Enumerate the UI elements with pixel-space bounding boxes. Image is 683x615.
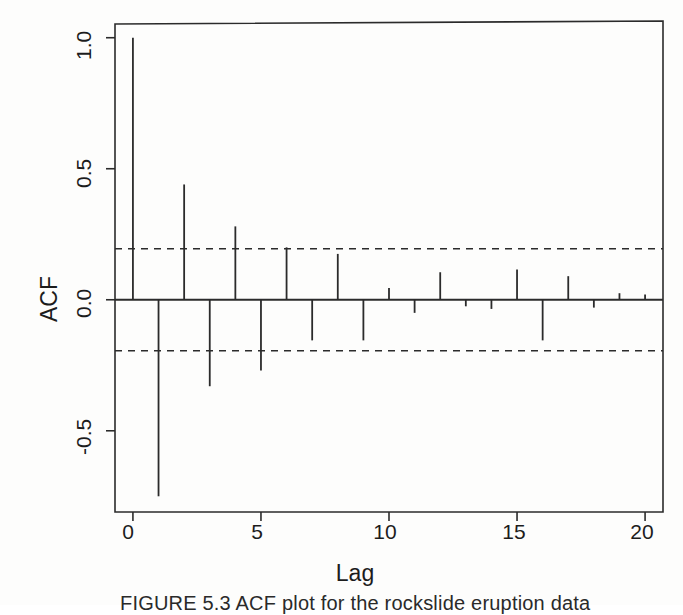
y-axis-title: ACF [36,276,63,322]
ytick-label-4: -0.5 [72,419,96,455]
xtick-label-1: 0 [122,520,134,544]
ytick-label-2: 0.5 [72,159,96,188]
xtick-label-4: 15 [502,520,525,544]
ytick-label-1: 1.0 [72,31,96,60]
plot-frame [115,21,663,512]
xtick-label-2: 5 [251,520,263,544]
xtick-label-3: 10 [373,520,396,544]
ytick-label-3: 0.0 [72,289,96,318]
figure-caption: FIGURE 5.3 ACF plot for the rockslide er… [120,592,590,615]
x-axis-title: Lag [336,560,374,587]
xtick-label-5: 20 [630,520,653,544]
